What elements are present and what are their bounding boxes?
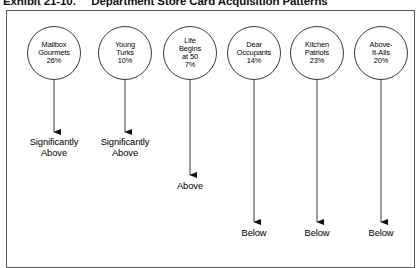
- segment-name: Life Begins at 50: [179, 37, 201, 61]
- segment-node-dear-occupants: Dear Occupants14%: [227, 26, 281, 80]
- segment-name: Above- It-Alls: [370, 41, 393, 57]
- segment-name: Mailbox Gourmets: [38, 41, 70, 57]
- outcome-label-young-turks: Significantly Above: [101, 136, 150, 158]
- segment-node-young-turks: Young Turks10%: [98, 26, 152, 80]
- segment-node-life-begins-at-50: Life Begins at 507%: [163, 26, 217, 80]
- segment-name: Kitchen Patriots: [305, 41, 329, 57]
- outcome-label-dear-occupants: Below: [241, 227, 266, 238]
- outcome-label-mailbox-gourmets: Significantly Above: [30, 136, 79, 158]
- segment-name: Dear Occupants: [237, 41, 271, 57]
- segment-node-mailbox-gourmets: Mailbox Gourmets26%: [27, 26, 81, 80]
- segment-percent: 14%: [247, 57, 262, 65]
- segment-percent: 10%: [118, 57, 133, 65]
- segment-node-kitchen-patriots: Kitchen Patriots23%: [290, 26, 344, 80]
- segment-percent: 7%: [185, 61, 195, 69]
- segment-percent: 23%: [310, 57, 325, 65]
- segment-name: Young Turks: [115, 41, 135, 57]
- segment-percent: 26%: [47, 57, 62, 65]
- segment-percent: 20%: [374, 57, 389, 65]
- outcome-label-above-it-alls: Below: [368, 227, 393, 238]
- segment-node-above-it-alls: Above- It-Alls20%: [354, 26, 408, 80]
- outcome-label-life-begins-at-50: Above: [177, 180, 203, 191]
- outcome-label-kitchen-patriots: Below: [304, 227, 329, 238]
